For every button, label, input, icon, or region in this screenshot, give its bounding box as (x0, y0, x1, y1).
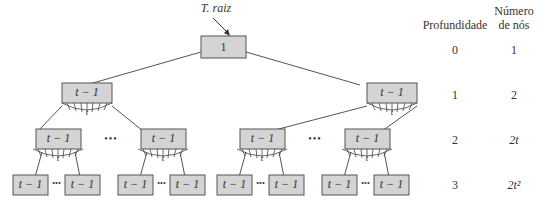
ellipsis: ••• (252, 179, 269, 188)
node-key: t − 1 (240, 131, 285, 146)
ellipsis: ••• (153, 179, 170, 188)
count-value: 2t² (495, 178, 533, 193)
depth-header: Profundidade (420, 18, 490, 33)
ellipsis: ••• (96, 133, 126, 144)
branch-label: t (158, 153, 168, 163)
depth-value: 3 (440, 178, 470, 193)
count-header-line1: Número (490, 4, 538, 19)
branch-label: t (82, 107, 92, 117)
count-value: 2 (495, 88, 533, 103)
node-key: t − 1 (13, 177, 48, 192)
depth-value: 2 (440, 133, 470, 148)
node-key: t − 1 (170, 177, 205, 192)
ellipsis: ••• (300, 133, 330, 144)
root-key: 1 (201, 40, 246, 55)
branch-label: t (53, 153, 63, 163)
node-key: t − 1 (217, 177, 252, 192)
node-key: t − 1 (367, 85, 417, 100)
root-arrow (213, 18, 228, 33)
count-header-line2: de nós (490, 18, 538, 33)
root-label: T. raiz (186, 1, 246, 16)
branch-label: t (362, 153, 372, 163)
node-key: t − 1 (62, 85, 112, 100)
branch-label: t (387, 107, 397, 117)
node-key: t − 1 (65, 177, 100, 192)
node-key: t − 1 (269, 177, 304, 192)
node-key: t − 1 (374, 177, 409, 192)
node-key: t − 1 (36, 131, 81, 146)
depth-value: 1 (440, 88, 470, 103)
depth-value: 0 (440, 43, 470, 58)
count-value: 1 (495, 43, 533, 58)
count-value: 2t (495, 133, 533, 148)
branch-label: t (257, 153, 267, 163)
node-key: t − 1 (141, 131, 186, 146)
ellipsis: ••• (48, 179, 65, 188)
node-key: t − 1 (345, 131, 390, 146)
ellipsis: ••• (357, 179, 374, 188)
node-key: t − 1 (322, 177, 357, 192)
node-key: t − 1 (118, 177, 153, 192)
